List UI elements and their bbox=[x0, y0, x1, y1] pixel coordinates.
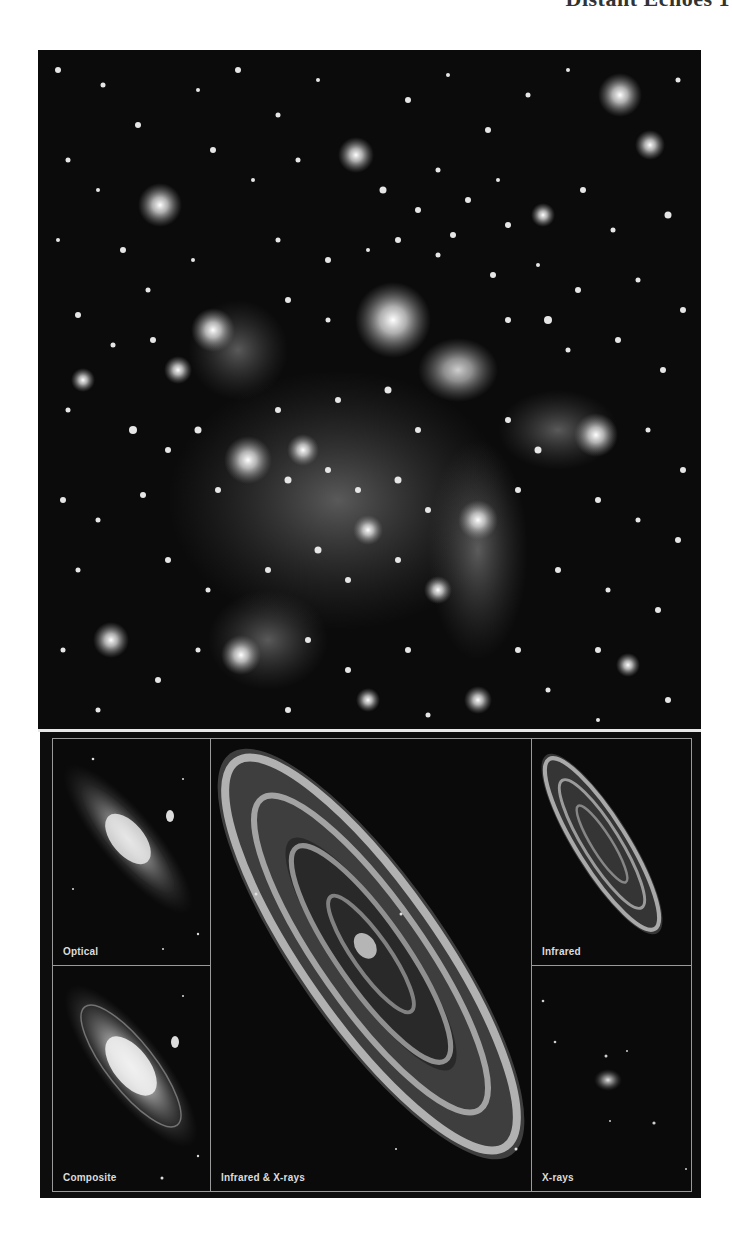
panel-label-optical: Optical bbox=[63, 946, 98, 957]
running-head: Distant Echoes 1 bbox=[566, 0, 730, 12]
xrays-graphic bbox=[532, 966, 692, 1192]
composite-galaxy-graphic bbox=[53, 966, 211, 1192]
galaxy-panel-figure: Optical Composite bbox=[40, 732, 701, 1198]
panel-optical: Optical bbox=[52, 738, 211, 966]
panel-infrared-xrays: Infrared & X-rays bbox=[210, 738, 532, 1192]
infrared-galaxy-graphic bbox=[532, 739, 692, 966]
panel-label-infrared-xrays: Infrared & X-rays bbox=[221, 1172, 305, 1183]
infrared-xrays-galaxy-graphic bbox=[211, 739, 532, 1192]
panel-label-infrared: Infrared bbox=[542, 946, 581, 957]
star-field-image bbox=[38, 50, 701, 729]
panel-label-composite: Composite bbox=[63, 1172, 116, 1183]
optical-galaxy-graphic bbox=[53, 739, 211, 966]
panel-xrays: X-rays bbox=[531, 965, 692, 1192]
star-field-graphic bbox=[38, 50, 701, 729]
panel-label-xrays: X-rays bbox=[542, 1172, 574, 1183]
panel-infrared: Infrared bbox=[531, 738, 692, 966]
panel-composite: Composite bbox=[52, 965, 211, 1192]
